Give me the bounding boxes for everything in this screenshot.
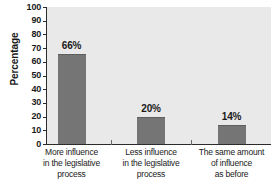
x-axis-category-label-line: in the legislative <box>32 158 112 169</box>
y-axis-tick-label: 50 <box>17 71 41 80</box>
plot-area <box>47 7 271 144</box>
x-axis-line <box>46 144 271 145</box>
x-axis-category-label: Less influencein the legislativeprocess <box>111 147 191 180</box>
y-axis-tick-label: 30 <box>17 98 41 107</box>
bar <box>58 54 86 144</box>
y-axis-tick-labels: 1009080706050403020100 <box>17 0 41 150</box>
x-axis-category-label-line: in the legislative <box>111 158 191 169</box>
y-axis-tick-label: 60 <box>17 57 41 66</box>
y-axis-tick-mark <box>43 130 47 131</box>
y-axis-tick-label: 10 <box>17 126 41 135</box>
y-axis-tick-mark <box>43 48 47 49</box>
x-axis-category-label-line: as before <box>192 169 272 180</box>
y-axis-tick-mark <box>43 144 47 145</box>
y-axis-tick-label: 90 <box>17 16 41 25</box>
x-axis-category-label-line: of influence <box>192 158 272 169</box>
y-axis-tick-mark <box>43 103 47 104</box>
x-axis-tick-mark <box>111 140 112 145</box>
y-axis-tick-mark <box>43 117 47 118</box>
x-axis-category-label-line: More influence <box>32 147 112 158</box>
y-axis-tick-label: 70 <box>17 44 41 53</box>
y-axis-tick-label: 20 <box>17 112 41 121</box>
x-axis-category-label-line: Less influence <box>111 147 191 158</box>
y-axis-tick-mark <box>43 7 47 8</box>
x-axis-category-label-line: process <box>32 169 112 180</box>
bar-value-label: 14% <box>208 111 256 122</box>
bar <box>218 125 246 144</box>
x-axis-category-label: More influencein the legislativeprocess <box>32 147 112 180</box>
y-axis-tick-mark <box>43 89 47 90</box>
y-axis-tick-mark <box>43 62 47 63</box>
bar-chart: Percentage 1009080706050403020100 More i… <box>0 0 271 184</box>
x-axis-category-labels: More influencein the legislativeprocessL… <box>0 147 271 184</box>
y-axis-tick-label: 100 <box>17 3 41 12</box>
x-axis-tick-mark <box>191 140 192 145</box>
y-axis-tick-mark <box>43 76 47 77</box>
y-axis-tick-label: 40 <box>17 85 41 94</box>
y-axis-tick-mark <box>43 21 47 22</box>
y-axis-tick-mark <box>43 34 47 35</box>
x-axis-category-label: The same amountof influenceas before <box>192 147 272 180</box>
y-axis-tick-label: 80 <box>17 30 41 39</box>
bar-value-label: 66% <box>48 40 96 51</box>
x-axis-category-label-line: process <box>111 169 191 180</box>
x-axis-category-label-line: The same amount <box>192 147 272 158</box>
bar-value-label: 20% <box>127 103 175 114</box>
bar <box>137 117 165 144</box>
